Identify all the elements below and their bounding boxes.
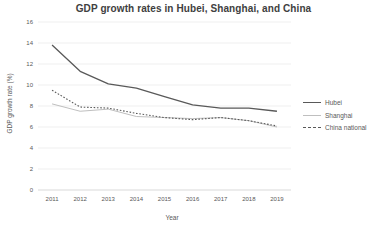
x-tick-label: 2012	[73, 196, 87, 202]
x-tick-label: 2016	[186, 196, 200, 202]
legend-item-shanghai: Shanghai	[303, 112, 385, 119]
x-tick-label: 2017	[214, 196, 228, 202]
legend-line-sample-china-national	[303, 127, 321, 128]
legend-label-shanghai: Shanghai	[325, 112, 352, 119]
legend-line-sample-shanghai	[303, 115, 321, 116]
x-tick-label: 2014	[130, 196, 144, 202]
x-tick-label: 2018	[242, 196, 256, 202]
y-tick-label: 16	[26, 19, 33, 25]
legend-line-sample-hubei	[303, 102, 321, 103]
x-tick-label: 2015	[158, 196, 172, 202]
legend-label-hubei: Hubei	[325, 99, 342, 106]
legend: Hubei Shanghai China national	[303, 99, 385, 131]
chart-container: GDP growth rates in Hubei, Shanghai, and…	[0, 0, 387, 231]
y-tick-label: 2	[30, 166, 34, 172]
x-tick-label: 2013	[102, 196, 116, 202]
y-tick-label: 4	[30, 145, 34, 151]
series-line-shanghai	[52, 104, 277, 127]
series-line-hubei	[52, 45, 277, 111]
x-tick-label: 2011	[46, 196, 60, 202]
y-tick-label: 6	[30, 124, 34, 130]
y-tick-label: 8	[30, 103, 34, 109]
legend-item-china-national: China national	[303, 124, 385, 131]
y-tick-label: 0	[30, 187, 34, 193]
y-tick-label: 14	[26, 40, 33, 46]
legend-item-hubei: Hubei	[303, 99, 385, 106]
x-axis-title: Year	[42, 214, 302, 221]
y-axis-title: GDP growth rate (%)	[6, 20, 15, 188]
y-tick-label: 10	[26, 82, 33, 88]
y-tick-label: 12	[26, 61, 33, 67]
legend-label-china-national: China national	[325, 124, 367, 131]
x-tick-label: 2019	[270, 196, 284, 202]
